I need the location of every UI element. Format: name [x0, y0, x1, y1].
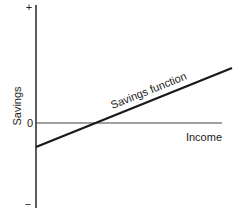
y-tick-plus: +	[26, 1, 32, 13]
y-tick-zero: 0	[27, 117, 33, 129]
chart-canvas: + 0 − Savings Income Savings function	[0, 0, 246, 216]
x-axis-label: Income	[186, 131, 222, 143]
y-axis-label: Savings	[11, 86, 23, 126]
y-tick-minus: −	[25, 198, 31, 210]
savings-function-chart: + 0 − Savings Income Savings function	[0, 0, 246, 216]
